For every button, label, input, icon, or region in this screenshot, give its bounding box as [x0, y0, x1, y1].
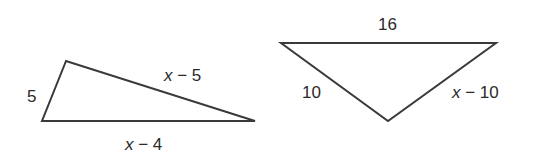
triangle-right: [281, 43, 496, 121]
label-hypotenuse-x-5: x − 5: [163, 66, 201, 85]
triangle-left: [42, 61, 255, 121]
label-top-16: 16: [378, 15, 397, 34]
label-left-10: 10: [302, 83, 321, 102]
label-left-side-5: 5: [27, 87, 36, 106]
diagram-canvas: 5 x − 5 x − 4 16 10 x − 10: [0, 0, 534, 156]
label-right-x-10: x − 10: [451, 83, 499, 102]
label-base-x-4: x − 4: [124, 135, 162, 154]
